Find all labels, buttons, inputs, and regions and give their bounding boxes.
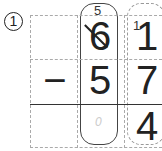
grid-line: [30, 15, 31, 148]
minuend-tens-digit: 6: [80, 14, 120, 59]
grid-line: [77, 15, 78, 148]
grid-line: [124, 15, 125, 148]
minuend-ones-digit: 1: [127, 14, 162, 59]
minus-operator: −: [35, 58, 75, 103]
problem-number-label: 1: [4, 12, 23, 31]
subtrahend-ones-digit: 7: [127, 58, 162, 103]
subtrahend-tens-digit: 5: [80, 58, 120, 103]
result-ones-digit: 4: [127, 104, 162, 149]
result-tens-digit: 0: [95, 115, 102, 129]
